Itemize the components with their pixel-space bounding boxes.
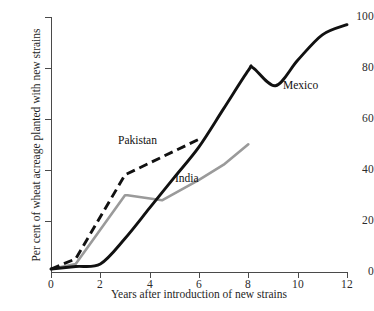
plot-area (0, 0, 374, 311)
series-label-pakistan: Pakistan (118, 134, 157, 146)
chart-container: 100 80 60 40 20 0 0 2 4 6 8 10 12 Per ce… (0, 0, 374, 311)
series-line-pakistan (51, 139, 199, 269)
series-label-india: India (175, 172, 199, 184)
series-line-mexico (51, 25, 347, 269)
series-label-mexico: Mexico (283, 79, 318, 91)
